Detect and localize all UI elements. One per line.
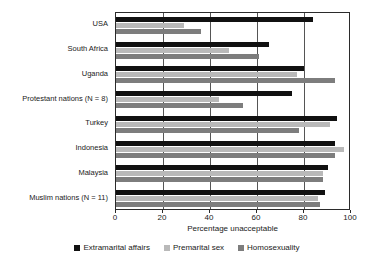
chart-legend: Extramarital affairsPremarital sexHomose…: [0, 243, 374, 252]
bar-premarital: [116, 23, 184, 28]
legend-swatch-premarital: [164, 245, 170, 251]
category-label: Uganda: [82, 69, 108, 78]
bar-extramarital: [116, 141, 335, 146]
bar-group: [116, 87, 349, 112]
bar-homosexuality: [116, 29, 201, 34]
bar-group: [116, 162, 349, 187]
bar-homosexuality: [116, 128, 299, 133]
x-tick-label: 60: [252, 213, 261, 223]
x-axis-title: Percentage unacceptable: [115, 224, 350, 233]
bar-homosexuality: [116, 54, 259, 59]
category-axis-labels: USASouth AfricaUgandaProtestant nations …: [0, 12, 112, 210]
bar-homosexuality: [116, 103, 243, 108]
category-label: Malaysia: [78, 168, 108, 177]
legend-label: Extramarital affairs: [83, 243, 150, 252]
category-label: USA: [93, 19, 108, 28]
legend-item-extramarital: Extramarital affairs: [74, 243, 150, 252]
x-axis-ticks: 020406080100: [115, 210, 350, 222]
bar-extramarital: [116, 91, 292, 96]
bar-premarital: [116, 171, 323, 176]
bar-group: [116, 137, 349, 162]
x-tick-label: 80: [299, 213, 308, 223]
legend-swatch-homosexuality: [238, 245, 244, 251]
bar-premarital: [116, 97, 219, 102]
category-label: South Africa: [68, 44, 108, 53]
bar-chart: USASouth AfricaUgandaProtestant nations …: [0, 0, 374, 264]
x-tick-label: 40: [205, 213, 214, 223]
bar-group: [116, 112, 349, 137]
category-label: Muslim nations (N = 11): [29, 193, 108, 202]
bar-group: [116, 38, 349, 63]
x-tick-label: 100: [343, 213, 356, 223]
bar-group: [116, 63, 349, 88]
bars-layer: [116, 13, 349, 209]
bar-premarital: [116, 122, 330, 127]
x-tick-label: 20: [158, 213, 167, 223]
bar-extramarital: [116, 190, 325, 195]
legend-item-premarital: Premarital sex: [164, 243, 224, 252]
bar-extramarital: [116, 116, 337, 121]
legend-label: Homosexuality: [247, 243, 299, 252]
bar-premarital: [116, 147, 344, 152]
plot-area: [115, 12, 350, 210]
category-label: Turkey: [85, 118, 108, 127]
category-label: Protestant nations (N = 8): [22, 94, 108, 103]
bar-homosexuality: [116, 202, 320, 207]
bar-extramarital: [116, 17, 313, 22]
bar-extramarital: [116, 42, 269, 47]
bar-premarital: [116, 72, 297, 77]
bar-group: [116, 186, 349, 211]
bar-extramarital: [116, 66, 304, 71]
bar-premarital: [116, 196, 318, 201]
x-tick-label: 0: [113, 213, 117, 223]
legend-item-homosexuality: Homosexuality: [238, 243, 299, 252]
bar-homosexuality: [116, 78, 335, 83]
bar-group: [116, 13, 349, 38]
category-label: Indonesia: [75, 143, 108, 152]
bar-homosexuality: [116, 153, 335, 158]
bar-extramarital: [116, 165, 328, 170]
legend-swatch-extramarital: [74, 245, 80, 251]
legend-label: Premarital sex: [173, 243, 224, 252]
bar-homosexuality: [116, 177, 323, 182]
bar-premarital: [116, 48, 229, 53]
